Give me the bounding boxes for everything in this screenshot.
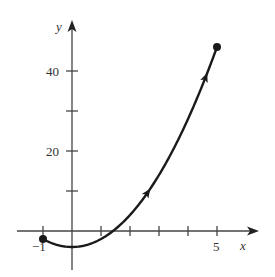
end-point <box>213 43 221 51</box>
start-point <box>39 235 47 243</box>
x-tick-label-5: 5 <box>213 239 220 254</box>
y-tick-label-40: 40 <box>46 64 59 79</box>
x-axis-label: x <box>239 238 246 253</box>
curve-path <box>43 47 217 247</box>
y-axis-label: y <box>54 19 62 34</box>
direction-arrow-icon <box>200 72 211 83</box>
tick-marks <box>43 71 217 236</box>
y-tick-label-20: 20 <box>46 144 59 159</box>
parametric-curve-chart: y x 40 20 −1 5 <box>0 0 275 277</box>
